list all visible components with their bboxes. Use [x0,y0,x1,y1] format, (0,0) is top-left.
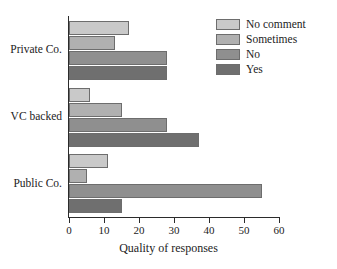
legend-item: No comment [216,17,334,32]
x-axis-tick [139,218,140,223]
x-axis-label: Quality of responses [0,241,337,256]
x-axis-tick [104,218,105,223]
legend-item: Sometimes [216,32,334,47]
bar [69,103,122,117]
x-axis-tick [69,218,70,223]
bar [69,169,87,183]
legend-swatch [216,64,240,75]
bar [69,154,108,168]
bar-chart-figure: 0102030405060 Private Co.VC backedPublic… [0,0,337,269]
legend: No commentSometimesNoYes [216,17,334,77]
legend-swatch [216,19,240,30]
bar [69,199,122,213]
legend-label: No [246,48,260,61]
x-axis-tick-label: 40 [194,224,224,237]
y-axis-category-label: VC backed [11,110,62,123]
y-axis-category-label: Public Co. [13,177,62,190]
bar [69,36,115,50]
x-axis-tick [174,218,175,223]
bar [69,51,167,65]
x-axis-tick-label: 30 [159,224,189,237]
legend-item: Yes [216,62,334,77]
x-axis-tick [209,218,210,223]
x-axis-tick-label: 20 [124,224,154,237]
bar [69,184,262,198]
x-axis-tick [279,218,280,223]
bar [69,21,129,35]
legend-label: Yes [246,63,263,76]
bar [69,88,90,102]
legend-label: Sometimes [246,33,297,46]
x-axis-tick-label: 50 [229,224,259,237]
bar [69,133,199,147]
x-axis-tick-label: 0 [54,224,84,237]
legend-label: No comment [246,18,306,31]
x-axis-tick-label: 10 [89,224,119,237]
legend-item: No [216,47,334,62]
legend-swatch [216,49,240,60]
bar [69,66,167,80]
bar [69,118,167,132]
legend-swatch [216,34,240,45]
x-axis-tick [244,218,245,223]
x-axis-tick-label: 60 [264,224,294,237]
y-axis-category-label: Private Co. [10,43,62,56]
